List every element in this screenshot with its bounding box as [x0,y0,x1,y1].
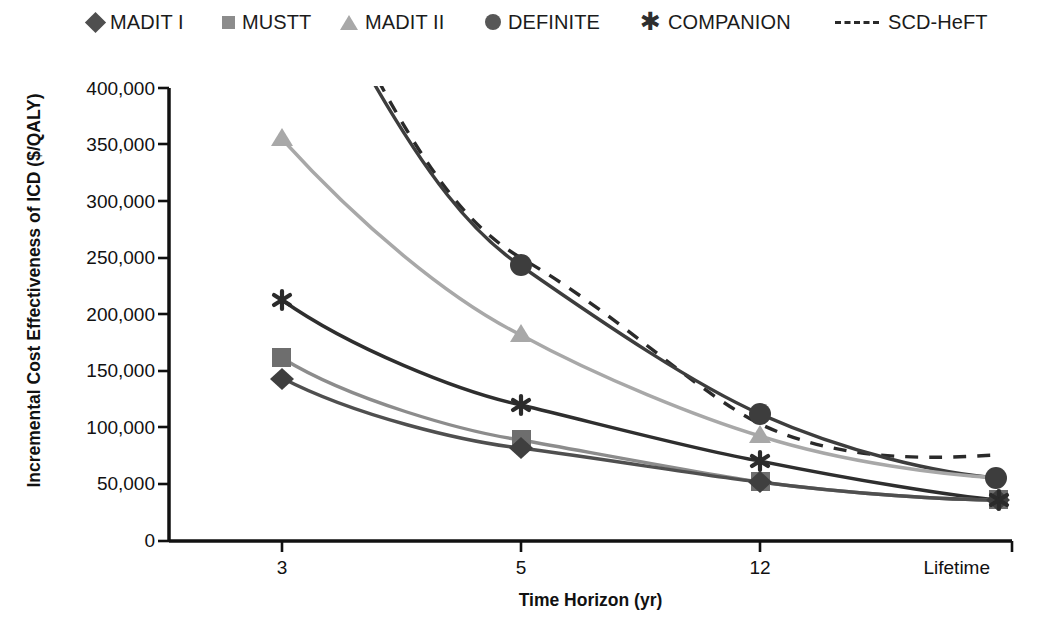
series-markers-madit-i [270,368,1010,511]
series-markers-companion [274,291,1007,509]
chart-plot-area [0,0,1045,630]
circle-marker [985,467,1007,489]
square-marker [272,348,291,367]
circle-marker [749,403,771,425]
series-line-definite [372,80,999,478]
figure-root: MADIT I MUSTT MADIT II DEFINITE ✱ COMPAN… [0,0,1045,630]
figure-footnote [0,620,1045,630]
series-line-scd-heft [378,80,995,457]
series-line-madit-i [282,378,999,500]
diamond-marker [270,368,294,390]
series-line-companion [282,300,999,500]
triangle-marker [271,128,293,146]
star-marker [274,291,290,309]
series-line-madit-ii [282,139,999,478]
series-line-mustt [282,358,999,500]
circle-marker [510,254,532,276]
